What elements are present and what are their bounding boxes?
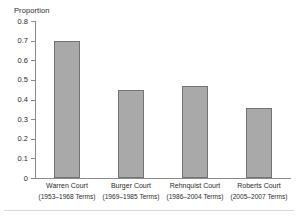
- x-label-name: Burger Court: [111, 182, 151, 189]
- bar-slot: [227, 21, 291, 178]
- bar-burger-court: [118, 90, 144, 178]
- bar-slot: [99, 21, 163, 178]
- x-label-name: Warren Court: [46, 182, 88, 189]
- bar-rehnquist-court: [182, 86, 208, 178]
- y-tick-label: 0.4: [18, 95, 28, 104]
- y-tick-label: 0.3: [18, 115, 28, 124]
- bar-roberts-court: [246, 108, 272, 178]
- y-tick-label: 0.1: [18, 154, 28, 163]
- y-tick-label: 0.2: [18, 134, 28, 143]
- y-tick-label: 0.8: [18, 17, 28, 26]
- x-axis-line: [35, 178, 291, 179]
- bar-chart-figure: Proportion 0.8 0.7 0.6 0.5 0.4 0.3 0.2 0…: [0, 0, 298, 220]
- y-tick-label: 0: [24, 174, 28, 183]
- bar-slot: [163, 21, 227, 178]
- bar-warren-court: [54, 41, 80, 178]
- x-label-term: (2005–2007 Terms): [221, 192, 297, 203]
- footer-rule: [4, 210, 294, 211]
- y-tick-label: 0.6: [18, 56, 28, 65]
- x-label-name: Roberts Court: [237, 182, 281, 189]
- bar-series: [35, 21, 291, 178]
- x-axis-category-labels: Warren Court (1953–1968 Terms) Burger Co…: [35, 181, 291, 207]
- y-tick-label: 0.7: [18, 36, 28, 45]
- x-label-roberts-court: Roberts Court (2005–2007 Terms): [221, 181, 297, 202]
- x-label-name: Rehnquist Court: [170, 182, 221, 189]
- bar-slot: [35, 21, 99, 178]
- y-tick-label: 0.5: [18, 75, 28, 84]
- y-axis-title: Proportion: [14, 6, 50, 15]
- y-tick: 0: [31, 178, 36, 179]
